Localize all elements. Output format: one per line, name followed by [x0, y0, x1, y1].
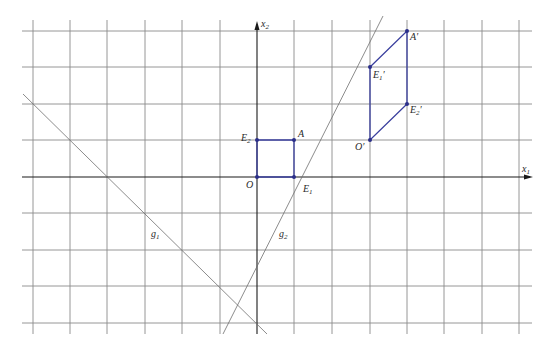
label-E2: E2 — [240, 132, 251, 145]
unit-square — [257, 140, 294, 177]
label-E2-prime: E2′ — [409, 104, 423, 117]
x1-axis-label: x1 — [521, 163, 530, 176]
label-A: A — [297, 128, 305, 139]
label-O: O — [246, 179, 253, 190]
point-E2 — [255, 138, 259, 142]
x2-axis-arrow-icon — [255, 21, 260, 30]
label-O-prime: O′ — [355, 141, 365, 152]
label-g1: g1 — [151, 228, 160, 241]
point-E1-prime — [368, 65, 372, 69]
image-parallelogram — [370, 31, 407, 140]
point-A-prime — [405, 29, 409, 33]
point-O-prime — [368, 138, 372, 142]
point-E1 — [292, 175, 296, 179]
x2-axis-label: x2 — [260, 18, 269, 31]
label-A-prime: A′ — [409, 31, 419, 42]
point-E2-prime — [405, 102, 409, 106]
label-E1-prime: E1′ — [372, 69, 386, 82]
label-g2: g2 — [279, 228, 288, 241]
label-E1: E1 — [302, 183, 313, 196]
point-O — [255, 175, 259, 179]
point-A — [292, 138, 296, 142]
coordinate-diagram: x1 x2 O E1 A E2 O′ E1′ A′ E2′ g1 g2 — [0, 0, 553, 361]
